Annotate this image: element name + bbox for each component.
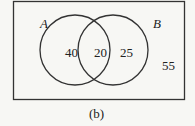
set-b-label: B: [153, 17, 161, 30]
b-only-value: 25: [120, 46, 133, 59]
outside-value: 55: [162, 59, 175, 72]
set-b-circle: [78, 15, 148, 85]
intersection-value: 20: [94, 46, 107, 59]
caption: (b): [89, 106, 104, 122]
a-only-value: 40: [65, 46, 78, 59]
set-a-label: A: [40, 17, 48, 30]
